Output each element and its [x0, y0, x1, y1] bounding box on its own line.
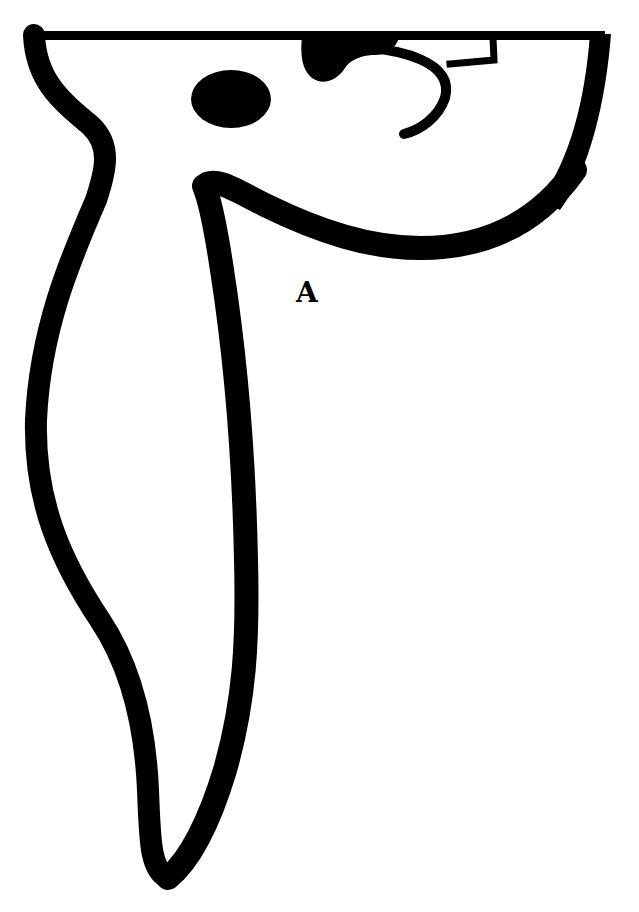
- label-a: A: [296, 276, 318, 309]
- inner-curve-stroke: [168, 170, 575, 878]
- hook-stroke: [370, 48, 446, 134]
- eye-ellipse: [191, 70, 271, 128]
- small-bracket: [450, 38, 494, 64]
- top-blob: [301, 36, 400, 82]
- diagram-canvas: [0, 0, 639, 912]
- left-outer-outline: [34, 35, 168, 878]
